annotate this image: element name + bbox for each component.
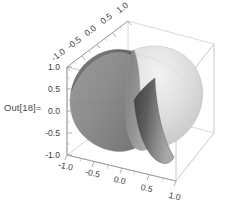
x-tick-label: 1.0	[168, 190, 182, 202]
y-tick-label: 0.0	[82, 23, 98, 38]
z-tick-label: 0.5	[48, 84, 60, 94]
z-tick-label: -0.5	[45, 128, 60, 138]
z-tick-label: 0.0	[48, 106, 60, 116]
y-tick-label: 1.0	[114, 0, 130, 15]
y-tick-label: 0.5	[98, 11, 114, 26]
mathematica-output-cell: Out[18]=	[0, 0, 225, 212]
x-tick-label: 0.0	[113, 174, 127, 186]
x-tick-label: -1.0	[57, 160, 74, 173]
z-tick-label: 1.0	[48, 62, 60, 72]
x-tick-label: -0.5	[84, 167, 101, 180]
z-axis-tick-labels: 1.0 0.5 0.0 -0.5 -1.0	[45, 62, 60, 160]
surface-blob	[70, 46, 203, 164]
y-tick-label: -0.5	[65, 34, 83, 51]
plot-3d-graphic[interactable]: 1.0 0.5 0.0 -0.5 -1.0 -1.0 -0.5 0.0 0.5 …	[0, 0, 225, 212]
x-axis-tick-labels: -1.0 -0.5 0.0 0.5 1.0	[57, 160, 181, 203]
z-axis	[67, 67, 72, 155]
z-tick-label: -1.0	[45, 150, 60, 160]
x-tick-label: 0.5	[140, 182, 154, 194]
y-tick-label: -1.0	[49, 46, 67, 63]
